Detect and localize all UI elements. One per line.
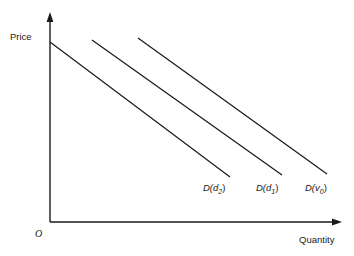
demand-curve-d2 — [50, 42, 230, 177]
demand-curves-group — [50, 38, 327, 177]
demand-curve-d1 — [92, 40, 282, 175]
demand-curve-v0 — [138, 38, 327, 174]
axes-group — [47, 12, 342, 225]
y-axis-arrowhead — [47, 12, 54, 22]
curve-label-d2: D(d2) — [203, 182, 225, 195]
curve-label-v0: D(v0) — [305, 182, 327, 195]
demand-curve-figure: Price Quantity O D(d2) D(d1) D(v0) — [0, 0, 354, 256]
curve-label-d1: D(d1) — [256, 182, 278, 195]
curve-label-d2-suffix: ) — [222, 182, 225, 193]
diagram-canvas: Price Quantity O D(d2) D(d1) D(v0) — [0, 0, 354, 256]
x-axis-arrowhead — [332, 219, 342, 226]
x-axis-title: Quantity — [299, 234, 335, 245]
curve-label-v0-suffix: ) — [324, 182, 327, 193]
origin-label: O — [35, 228, 42, 239]
y-axis-title: Price — [10, 31, 32, 42]
curve-label-d1-suffix: ) — [275, 182, 278, 193]
